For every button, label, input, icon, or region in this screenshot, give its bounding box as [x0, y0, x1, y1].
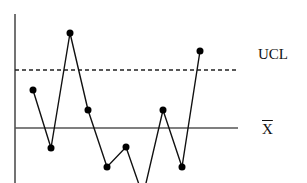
xbar-label: X [262, 121, 273, 138]
data-point [85, 107, 92, 114]
data-series-line [33, 33, 200, 183]
control-chart [0, 0, 307, 183]
data-point [48, 145, 55, 152]
data-point [30, 87, 37, 94]
data-point [179, 164, 186, 171]
data-point [104, 164, 111, 171]
data-point [160, 107, 167, 114]
data-point [67, 30, 74, 37]
data-markers [30, 30, 204, 171]
ucl-label: UCL [258, 46, 288, 63]
xbar-label-text: X [262, 121, 273, 137]
data-point [123, 144, 130, 151]
data-point [197, 48, 204, 55]
